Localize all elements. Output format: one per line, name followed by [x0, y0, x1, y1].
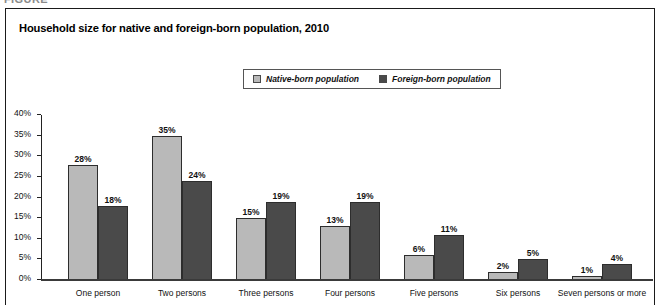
y-axis-tick-label: 0% [19, 273, 31, 283]
bar-value-label: 1% [581, 265, 593, 275]
bar-foreign-born[interactable]: 24% [182, 181, 212, 280]
y-axis-tick-label: 40% [14, 108, 31, 118]
bar-value-label: 15% [242, 207, 259, 217]
x-axis-label-6: Six persons [496, 288, 540, 298]
x-axis-label-3: Three persons [239, 288, 294, 298]
legend-item-native-born: Native-born population [253, 74, 359, 84]
x-axis-label-4: Four persons [325, 288, 375, 298]
bar-foreign-born[interactable]: 11% [434, 235, 464, 280]
bar-native-born[interactable]: 28% [68, 165, 98, 281]
y-axis-tick-label: 5% [19, 252, 31, 262]
figure-caption-text: FIGURE [4, 0, 48, 5]
bar-value-label: 6% [413, 244, 425, 254]
bar-value-label: 19% [272, 191, 289, 201]
bar-group: 15%19% [236, 107, 296, 280]
bar-value-label: 24% [188, 170, 205, 180]
bar-foreign-born[interactable]: 19% [350, 202, 380, 280]
x-axis-label-7: Seven persons or more [558, 288, 646, 298]
y-axis-tick-label: 10% [14, 232, 31, 242]
y-axis-tick-label: 30% [14, 149, 31, 159]
bar-value-label: 19% [356, 191, 373, 201]
legend-swatch-foreign-icon [379, 75, 387, 83]
bar-native-born[interactable]: 13% [320, 226, 350, 280]
bar-foreign-born[interactable]: 4% [602, 264, 632, 281]
bar-series-container: 28%18%35%24%15%19%13%19%6%11%2%5%1%4% [41, 107, 653, 280]
bar-value-label: 18% [104, 195, 121, 205]
page-title: Household size for native and foreign-bo… [19, 22, 329, 34]
bar-value-label: 5% [527, 248, 539, 258]
bar-value-label: 35% [158, 125, 175, 135]
bar-group: 6%11% [404, 107, 464, 280]
bar-foreign-born[interactable]: 5% [518, 259, 548, 280]
bar-value-label: 11% [441, 224, 458, 234]
bar-native-born[interactable]: 6% [404, 255, 434, 280]
chart-legend: Native-born population Foreign-born popu… [243, 69, 501, 89]
x-axis-label-1: One person [76, 288, 120, 298]
bar-value-label: 2% [497, 261, 509, 271]
y-axis-tick-label: 25% [14, 170, 31, 180]
x-axis-label-5: Five persons [410, 288, 459, 298]
x-axis-category-labels: One personTwo personsThree personsFour p… [41, 288, 653, 304]
bar-group: 28%18% [68, 107, 128, 280]
legend-label-foreign: Foreign-born population [392, 74, 491, 84]
figure-caption-strip: FIGURE [0, 0, 668, 7]
bar-foreign-born[interactable]: 18% [98, 206, 128, 280]
y-axis-tick-label: 15% [14, 211, 31, 221]
y-axis-tick-label: 35% [14, 129, 31, 139]
y-axis-tick-label: 20% [14, 191, 31, 201]
plot-area: 0%5%10%15%20%25%30%35%40% 28%18%35%24%15… [41, 107, 653, 282]
x-axis-label-2: Two persons [158, 288, 206, 298]
bar-group: 1%4% [572, 107, 632, 280]
bar-value-label: 28% [74, 154, 91, 164]
bar-value-label: 13% [326, 215, 343, 225]
bar-native-born[interactable]: 35% [152, 136, 182, 280]
bar-foreign-born[interactable]: 19% [266, 202, 296, 280]
x-axis-line [41, 279, 653, 281]
legend-label-native: Native-born population [266, 74, 359, 84]
bar-group: 13%19% [320, 107, 380, 280]
bar-group: 2%5% [488, 107, 548, 280]
bar-group: 35%24% [152, 107, 212, 280]
legend-item-foreign-born: Foreign-born population [379, 74, 491, 84]
figure-frame: Household size for native and foreign-bo… [5, 8, 655, 305]
bar-value-label: 4% [611, 253, 623, 263]
bar-native-born[interactable]: 15% [236, 218, 266, 280]
legend-swatch-native-icon [253, 75, 261, 83]
